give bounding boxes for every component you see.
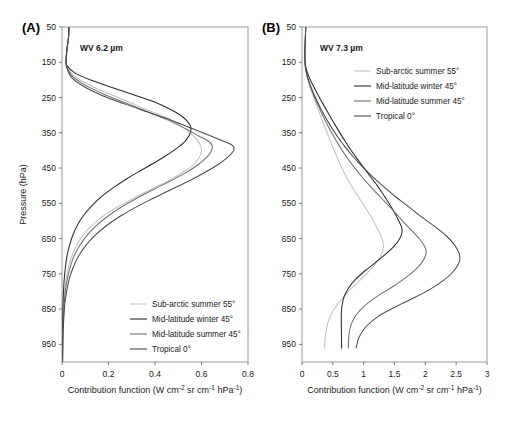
y-tick-label-b-5: 550 [282,198,296,208]
curve-a-3 [63,27,234,362]
legend-label-3: Tropical 0° [152,345,191,354]
plot-frame-a [62,27,248,362]
y-tick-label-a-0: 50 [47,22,57,32]
panel-annotation-b: WV 7.3 µm [320,43,363,53]
y-tick-label-a-7: 750 [42,269,56,279]
x-tick-label-b-0: 0 [300,369,305,379]
y-tick-label-a-1: 150 [42,57,56,67]
legend-a: Sub-arctic summer 55°Mid-latitude winter… [130,300,241,354]
y-tick-label-a-5: 550 [42,198,56,208]
y-tick-label-b-4: 450 [282,163,296,173]
x-tick-label-b-5: 2.5 [450,369,462,379]
panel-annotation-a: WV 6.2 µm [80,43,123,53]
legend-label-1: Mid-latitude winter 45° [376,82,457,91]
y-tick-label-a-9: 950 [42,339,56,349]
x-tick-label-b-2: 1 [361,369,366,379]
plot-frame-b [302,27,487,362]
y-tick-label-b-6: 650 [282,234,296,244]
x-tick-label-b-6: 3 [485,369,490,379]
y-tick-label-a-4: 450 [42,163,56,173]
legend-label-1: Mid-latitude winter 45° [152,315,233,324]
x-tick-label-b-4: 2 [423,369,428,379]
curves-a [62,27,234,362]
x-tick-label-a-0: 0 [60,369,65,379]
figure-container: (A) (B) 5015025035045055065075085095000.… [0,0,512,435]
y-tick-label-b-0: 50 [287,22,297,32]
x-tick-label-a-2: 0.4 [149,369,161,379]
x-tick-label-b-3: 1.5 [389,369,401,379]
panel-a: 5015025035045055065075085095000.20.40.60… [42,22,254,395]
x-tick-label-a-3: 0.6 [196,369,208,379]
panel-b: 5015025035045055065075085095000.511.522.… [282,22,490,395]
y-tick-label-a-6: 650 [42,234,56,244]
x-tick-label-a-1: 0.2 [103,369,115,379]
x-tick-label-b-1: 0.5 [327,369,339,379]
y-tick-label-b-7: 750 [282,269,296,279]
y-tick-label-b-8: 850 [282,304,296,314]
x-tick-label-a-4: 0.8 [242,369,254,379]
legend-label-0: Sub-arctic summer 55° [376,67,459,76]
legend-label-3: Tropical 0° [376,112,415,121]
y-tick-label-a-3: 350 [42,128,56,138]
y-tick-label-b-1: 150 [282,57,296,67]
y-tick-label-b-3: 350 [282,128,296,138]
legend-label-2: Mid-latitude summer 45° [152,330,241,339]
y-tick-label-b-9: 950 [282,339,296,349]
svg-text:Contribution function (W cm-2: Contribution function (W cm-2 sr cm-1 hP… [68,384,243,395]
legend-label-2: Mid-latitude summer 45° [376,97,465,106]
y-tick-label-a-2: 250 [42,93,56,103]
y-tick-label-b-2: 250 [282,93,296,103]
plot-svg: 5015025035045055065075085095000.20.40.60… [0,0,512,435]
svg-text:Contribution function (W cm-2: Contribution function (W cm-2 sr cm-1 hP… [307,384,482,395]
y-axis-title: Pressure (hPa) [18,164,28,225]
curve-a-1 [62,27,191,362]
y-tick-label-a-8: 850 [42,304,56,314]
legend-label-0: Sub-arctic summer 55° [152,300,235,309]
legend-b: Sub-arctic summer 55°Mid-latitude winter… [354,67,465,121]
x-axis-title-a: Contribution function (W cm-2 sr cm-1 hP… [68,384,243,395]
x-axis-title-b: Contribution function (W cm-2 sr cm-1 hP… [307,384,482,395]
